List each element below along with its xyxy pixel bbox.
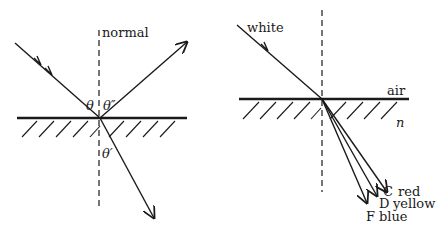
normal-label: normal — [102, 25, 149, 40]
ray-c-red — [322, 99, 387, 192]
right-diagram: white air n C red D yellow F blue — [237, 10, 435, 224]
svg-text:F: F — [366, 209, 375, 224]
reflected-angle-label: θ″ — [103, 98, 116, 113]
ray-label-f: F blue — [366, 209, 408, 224]
optics-figure: normal θ θ″ θ′ white air n — [0, 0, 441, 234]
left-diagram: normal θ θ″ θ′ — [15, 25, 187, 218]
white-incident-ray — [237, 25, 322, 99]
incident-angle-label: θ — [86, 98, 94, 113]
medium-hatching — [243, 102, 397, 119]
refracted-ray — [100, 118, 154, 218]
ray-f-blue — [322, 99, 367, 203]
svg-text:blue: blue — [379, 209, 408, 224]
refracted-angle-label: θ′ — [102, 146, 113, 161]
index-n-label: n — [396, 115, 404, 130]
white-label: white — [247, 20, 284, 35]
air-label: air — [387, 83, 406, 98]
